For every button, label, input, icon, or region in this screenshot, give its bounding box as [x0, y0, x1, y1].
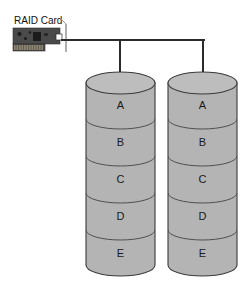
disk-right[interactable]: A B C D E — [168, 72, 237, 276]
raid-diagram-canvas: RAID Card — [0, 0, 250, 300]
raid-card-chip-square — [33, 32, 41, 41]
disk-left-segment-label-c: C — [117, 173, 125, 185]
raid-card-chip-round-1 — [17, 32, 21, 36]
raid-card-group[interactable]: RAID Card — [13, 15, 66, 52]
raid-card-chip-round-2 — [24, 37, 27, 40]
disk-left-segment-label-a: A — [117, 99, 125, 111]
disk-left-segment-label-e: E — [117, 247, 124, 259]
disk-right-top-cap — [168, 72, 237, 94]
raid-card-label: RAID Card — [14, 15, 62, 26]
disk-right-segment-label-c: C — [199, 173, 207, 185]
disk-left-segment-label-b: B — [117, 136, 124, 148]
disk-left-segment-label-d: D — [117, 210, 125, 222]
disk-right-segment-label-d: D — [199, 210, 207, 222]
disk-right-segment-label-e: E — [199, 247, 206, 259]
disk-right-segment-label-b: B — [199, 136, 206, 148]
disk-left-top-cap — [86, 72, 155, 94]
disk-left[interactable]: A B C D E — [86, 72, 155, 276]
raid-card-chip-small — [44, 33, 48, 36]
disk-right-segment-label-a: A — [199, 99, 207, 111]
raid-diagram-svg: RAID Card — [0, 0, 250, 300]
raid-card-chip-round-3 — [29, 31, 31, 33]
